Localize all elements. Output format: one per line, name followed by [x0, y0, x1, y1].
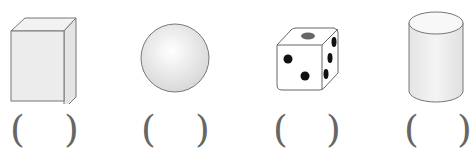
answer-blank-3-close: ): [326, 110, 341, 148]
answer-blank-4-open: (: [404, 110, 419, 148]
answer-blank-1-close: ): [64, 110, 79, 148]
cuboid-icon: [8, 14, 80, 104]
answer-blank-2-open: (: [141, 110, 156, 148]
sphere-icon: [139, 21, 211, 95]
cylinder-icon: [406, 10, 466, 104]
answer-blank-1-open: (: [10, 110, 25, 148]
answer-blank-3-open: (: [273, 110, 288, 148]
answer-blank-4-close: ): [457, 110, 472, 148]
dice-icon: [274, 25, 340, 93]
answer-blank-2-close: ): [195, 110, 210, 148]
